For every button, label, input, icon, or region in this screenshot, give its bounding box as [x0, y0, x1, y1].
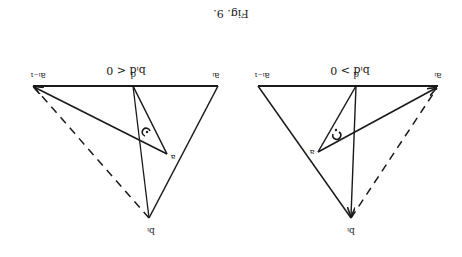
left-panel: bᵢd < 0 aᵢ₋₁ d aᵢ a bᵢ — [30, 64, 219, 236]
figure-caption: Fig. 9. — [213, 7, 249, 20]
label-a-right: a — [309, 148, 314, 157]
label-a-i-right: aᵢ — [434, 71, 441, 81]
label-b-i-left: bᵢ — [147, 226, 155, 236]
left-condition: bᵢd < 0 — [106, 64, 146, 77]
rotation-ccw-icon — [333, 129, 341, 140]
label-d-left: d — [130, 70, 136, 80]
figure-9: Fig. 9. bᵢd < 0 aᵢ₋₁ d aᵢ — [0, 0, 462, 257]
rotation-cw-icon — [142, 128, 150, 136]
label-a-left: a — [170, 153, 175, 162]
right-panel: bᵢd > 0 aᵢ₋₁ d aᵢ a bᵢ — [254, 64, 441, 236]
label-a-i-left: aᵢ — [212, 71, 219, 81]
label-a-prev-left: aᵢ₋₁ — [30, 71, 46, 81]
label-b-i-right: bᵢ — [347, 226, 355, 236]
label-d-right: d — [353, 70, 359, 80]
right-condition: bᵢd > 0 — [330, 64, 370, 77]
label-a-prev-right: aᵢ₋₁ — [254, 71, 270, 81]
